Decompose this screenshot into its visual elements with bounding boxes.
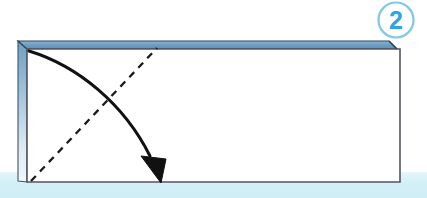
- step-badge: 2: [379, 3, 414, 38]
- paper-fold-diagram: 2: [0, 0, 427, 198]
- step-badge-label: 2: [389, 6, 403, 34]
- paper-front-sheet: [27, 49, 400, 182]
- paper-back-top-edge: [18, 41, 397, 49]
- illustration-canvas: 2: [0, 0, 427, 198]
- paper-back-left-edge: [18, 41, 27, 182]
